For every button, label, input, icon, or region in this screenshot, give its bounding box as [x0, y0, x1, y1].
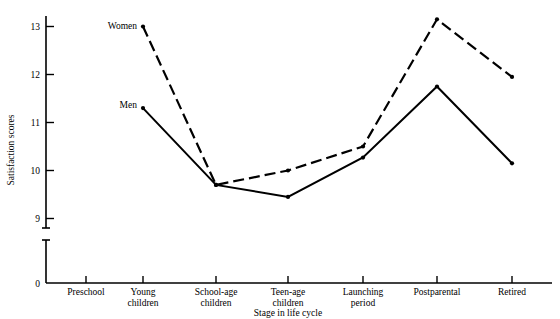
x-tick-label-launching-period-line1: Launching	[343, 287, 384, 297]
x-tick-label-young-children-line1: Young	[131, 287, 156, 297]
x-tick-label-teen-age-children-line2: children	[272, 298, 303, 308]
x-tick-label-young-children-line2: children	[127, 298, 158, 308]
data-point	[141, 24, 145, 28]
series-points-men	[141, 84, 514, 199]
y-tick-label-13: 13	[31, 22, 41, 32]
x-tick-label-teen-age-children-line1: Teen-age	[271, 287, 306, 297]
y-tick-marks	[46, 27, 54, 219]
y-tick-label-12: 12	[31, 70, 41, 80]
line-chart: 13 12 11 10 9 0 Satisfaction scores Pres…	[0, 0, 560, 319]
data-point	[214, 183, 218, 187]
x-axis-title: Stage in life cycle	[254, 308, 322, 318]
data-point	[361, 144, 365, 148]
data-point	[361, 155, 365, 159]
x-tick-label-postparental-line1: Postparental	[414, 287, 461, 297]
x-tick-label-school-age-children-line1: School-age	[195, 287, 238, 297]
series-label-women: Women	[108, 21, 138, 31]
series-label-men: Men	[120, 100, 138, 110]
data-point	[286, 168, 290, 172]
y-tick-label-10: 10	[31, 166, 41, 176]
series-line-men	[143, 87, 512, 197]
chart-canvas: 13 12 11 10 9 0 Satisfaction scores Pres…	[0, 0, 560, 319]
x-tick-label-launching-period-line2: period	[351, 298, 376, 308]
y-tick-label-9: 9	[35, 214, 40, 224]
data-point	[435, 84, 439, 88]
data-point	[510, 75, 514, 79]
y-tick-label-0: 0	[35, 279, 40, 289]
x-tick-marks	[86, 276, 512, 283]
x-tick-label-school-age-children-line2: children	[200, 298, 231, 308]
data-point	[141, 106, 145, 110]
data-point	[286, 195, 290, 199]
x-tick-label-retired-line1: Retired	[498, 287, 526, 297]
series-line-women	[143, 19, 512, 185]
series-points-women	[141, 17, 514, 187]
y-axis-title: Satisfaction scores	[6, 114, 16, 185]
data-point	[435, 17, 439, 21]
y-tick-label-11: 11	[31, 118, 40, 128]
x-tick-label-preschool-line1: Preschool	[67, 287, 105, 297]
data-point	[510, 161, 514, 165]
